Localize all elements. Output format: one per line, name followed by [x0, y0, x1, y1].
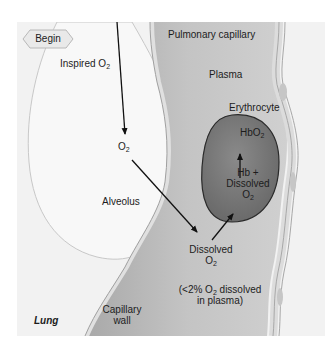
label-capillary-wall: Capillary wall	[97, 304, 147, 326]
label-plasma: Plasma	[209, 69, 242, 80]
label-lung: Lung	[34, 315, 58, 326]
oxygen-transport-illustration	[17, 22, 325, 336]
label-alveolus: Alveolus	[102, 196, 140, 207]
label-pulmonary-capillary: Pulmonary capillary	[168, 29, 255, 40]
label-dissolved-o2-plasma: Dissolved O2	[184, 244, 238, 266]
begin-button-label: Begin	[22, 29, 74, 49]
begin-button[interactable]: Begin	[22, 29, 74, 49]
label-hbo2: HbO2	[240, 127, 264, 138]
label-erythrocyte: Erythrocyte	[229, 102, 280, 113]
label-inspired-o2: Inspired O2	[60, 58, 110, 69]
label-hb-dissolved-o2: Hb + Dissolved O2	[223, 167, 273, 200]
label-alveolar-o2: O2	[118, 141, 130, 152]
diagram-canvas: Begin Inspired O2 O2 Alveolus Pulmonary …	[17, 22, 325, 336]
label-percent-dissolved-note: (<2% O2 dissolved in plasma)	[175, 284, 265, 306]
